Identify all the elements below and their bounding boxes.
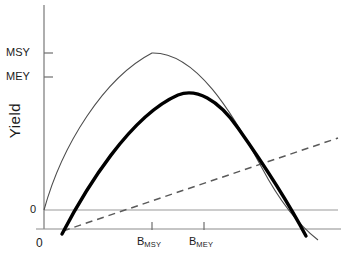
plot-area: [0, 0, 343, 261]
x-tick-label-bmsy-subscript: MSY: [144, 240, 161, 249]
y-tick-label-msy: MSY: [6, 46, 30, 58]
x-tick-label-bmey-subscript: MEY: [196, 240, 213, 249]
y-tick-label-zero: 0: [30, 203, 36, 215]
y-tick-label-mey: MEY: [6, 70, 30, 82]
net-economic-yield-curve: [62, 93, 306, 236]
sustainable-yield-curve: [44, 53, 318, 240]
origin-label: 0: [36, 236, 43, 250]
yield-curve-chart: Yield MSY MEY 0 0 BMSY BMEY: [0, 0, 343, 261]
y-axis-title: Yield: [6, 91, 23, 151]
x-tick-label-bmsy: BMSY: [137, 235, 161, 247]
x-tick-label-bmey: BMEY: [189, 235, 213, 247]
